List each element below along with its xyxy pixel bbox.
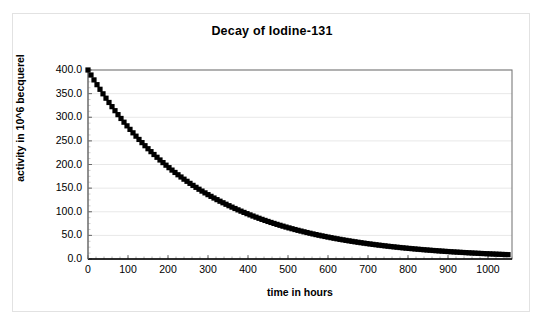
data-point [88,72,93,77]
chart-figure: Decay of Iodine-131 activity in 10^6 bec… [0,0,544,325]
data-point [505,252,510,257]
data-point [85,67,90,72]
data-point [94,82,99,87]
data-point [97,87,102,92]
data-series-markers [85,67,510,257]
data-point [91,77,96,82]
plot-area [0,0,544,325]
